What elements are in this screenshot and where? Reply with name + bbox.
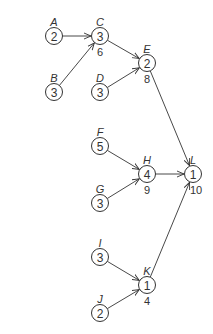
- node-duration: 3: [97, 86, 104, 100]
- node-label: J: [96, 293, 103, 305]
- node-duration: 3: [97, 30, 104, 44]
- node-j: J2: [92, 293, 109, 322]
- node-i: I3: [92, 237, 109, 266]
- edge-c-to-e-arrow: [107, 40, 139, 58]
- node-f: F5: [92, 126, 109, 155]
- node-label: L: [190, 154, 196, 166]
- node-duration: 2: [144, 57, 151, 71]
- node-duration: 3: [97, 251, 104, 265]
- edges-group: [59, 36, 189, 309]
- edge-d-to-e-arrow: [107, 68, 139, 88]
- node-label: I: [98, 237, 101, 249]
- node-label: D: [96, 72, 104, 84]
- edge-j-to-k-arrow: [107, 290, 139, 309]
- edge-k-to-l-arrow: [150, 182, 189, 277]
- node-duration: 1: [144, 279, 151, 293]
- node-g: G3: [92, 183, 109, 212]
- node-d: D3: [92, 72, 109, 101]
- node-a: A2: [46, 16, 63, 45]
- node-label: C: [96, 16, 104, 28]
- edge-f-to-h-arrow: [107, 150, 139, 169]
- node-earliest-finish: 9: [144, 184, 150, 196]
- node-duration: 3: [97, 197, 104, 211]
- node-label: K: [143, 265, 151, 277]
- node-label: B: [50, 72, 57, 84]
- node-duration: 1: [190, 168, 197, 182]
- node-label: E: [143, 43, 151, 55]
- node-h: H49: [139, 154, 156, 196]
- node-b: B3: [46, 72, 63, 101]
- node-earliest-finish: 6: [97, 46, 103, 58]
- edge-g-to-h-arrow: [107, 179, 139, 199]
- node-label: F: [97, 126, 105, 138]
- edge-i-to-k-arrow: [107, 261, 139, 280]
- node-duration: 3: [51, 86, 58, 100]
- node-label: A: [49, 16, 57, 28]
- node-duration: 4: [144, 168, 151, 182]
- network-diagram: A2B3C36D3E28F5G3H49I3J2K14L110: [0, 0, 213, 334]
- node-duration: 5: [97, 140, 104, 154]
- node-earliest-finish: 8: [144, 73, 150, 85]
- node-label: G: [96, 183, 105, 195]
- node-earliest-finish: 10: [190, 184, 202, 196]
- node-duration: 2: [51, 30, 58, 44]
- node-duration: 2: [97, 307, 104, 321]
- node-c: C36: [92, 16, 109, 58]
- edge-b-to-c-arrow: [59, 43, 94, 85]
- edge-e-to-l-arrow: [150, 71, 189, 166]
- node-label: H: [143, 154, 151, 166]
- node-earliest-finish: 4: [144, 295, 150, 307]
- nodes-group: A2B3C36D3E28F5G3H49I3J2K14L110: [46, 16, 203, 322]
